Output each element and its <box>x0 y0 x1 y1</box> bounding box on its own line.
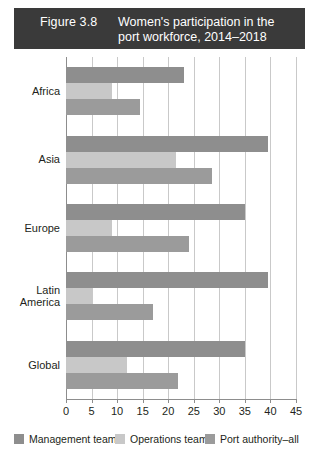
legend-item-management-team[interactable]: Management team <box>14 433 117 445</box>
bar-europe-operations-team <box>66 220 112 236</box>
bar-group-asia <box>66 136 296 184</box>
chart-container: AfricaAsiaEuropeLatinAmericaGlobal 05101… <box>0 55 319 405</box>
category-label-africa: Africa <box>2 85 60 98</box>
bar-asia-operations-team <box>66 152 176 168</box>
bar-europe-port-authority-all <box>66 236 189 252</box>
x-axis-line <box>66 399 297 400</box>
category-label-line: Africa <box>2 85 60 98</box>
chart-legend: Management teamOperations teamPort autho… <box>0 433 319 455</box>
category-label-line: Latin <box>2 284 60 297</box>
x-tick-45 <box>296 399 297 403</box>
figure-number: Figure 3.8 <box>40 15 97 29</box>
category-label-global: Global <box>2 359 60 372</box>
bar-latin-america-management-team <box>66 272 268 288</box>
category-label-line: Europe <box>2 222 60 235</box>
bar-global-port-authority-all <box>66 373 178 389</box>
category-label-line: America <box>2 296 60 309</box>
legend-item-operations-team[interactable]: Operations team <box>115 433 208 445</box>
category-axis-labels: AfricaAsiaEuropeLatinAmericaGlobal <box>0 57 60 399</box>
x-tick-20 <box>168 399 169 403</box>
legend-label: Port authority–all <box>220 433 299 445</box>
x-tick-10 <box>117 399 118 403</box>
legend-label: Operations team <box>130 433 208 445</box>
legend-swatch-icon <box>115 434 125 444</box>
legend-label: Management team <box>29 433 117 445</box>
x-tick-40 <box>270 399 271 403</box>
bar-latin-america-operations-team <box>66 288 92 304</box>
bar-group-global <box>66 341 296 389</box>
bar-asia-port-authority-all <box>66 168 212 184</box>
bar-europe-management-team <box>66 204 245 220</box>
x-tick-label-45: 45 <box>281 405 311 417</box>
plot-area <box>66 57 296 399</box>
category-label-line: Global <box>2 359 60 372</box>
x-tick-15 <box>143 399 144 403</box>
category-label-line: Asia <box>2 153 60 166</box>
x-tick-25 <box>194 399 195 403</box>
bar-asia-management-team <box>66 136 268 152</box>
gridline-45 <box>296 57 297 399</box>
figure-title: Women's participation in the port workfo… <box>118 15 298 44</box>
category-label-latin-america: LatinAmerica <box>2 284 60 309</box>
legend-swatch-icon <box>14 434 24 444</box>
bar-group-africa <box>66 67 296 115</box>
bar-global-operations-team <box>66 357 127 373</box>
x-tick-30 <box>219 399 220 403</box>
x-tick-0 <box>66 399 67 403</box>
bar-global-management-team <box>66 341 245 357</box>
bar-group-europe <box>66 204 296 252</box>
bar-africa-management-team <box>66 67 184 83</box>
x-tick-5 <box>92 399 93 403</box>
x-tick-35 <box>245 399 246 403</box>
legend-swatch-icon <box>205 434 215 444</box>
bar-africa-port-authority-all <box>66 99 140 115</box>
category-label-asia: Asia <box>2 153 60 166</box>
bar-africa-operations-team <box>66 83 112 99</box>
bar-group-latin-america <box>66 272 296 320</box>
bar-latin-america-port-authority-all <box>66 304 153 320</box>
legend-item-port-authority-all[interactable]: Port authority–all <box>205 433 299 445</box>
category-label-europe: Europe <box>2 222 60 235</box>
figure-title-bar: Figure 3.8 Women's participation in the … <box>14 8 305 49</box>
